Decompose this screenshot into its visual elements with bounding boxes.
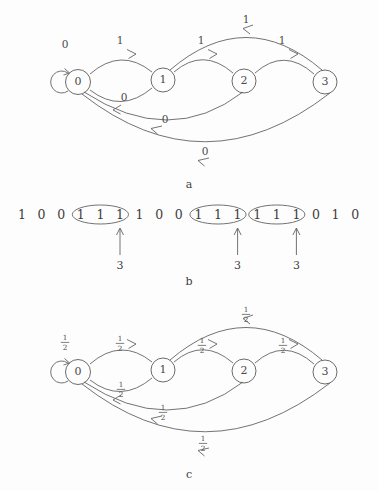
state-node-1[interactable]: 1 — [151, 68, 175, 92]
bit-digit: 0 — [57, 207, 65, 222]
panel-b-bit-sequence: 100111100111111010 333 b — [0, 195, 378, 300]
fraction-numerator: 1 — [201, 434, 206, 443]
edge-path-2-3 — [255, 60, 314, 74]
state-label-3: 3 — [322, 365, 329, 378]
bit-digit: 0 — [312, 207, 320, 222]
transition-label-1-0: 0 — [121, 91, 128, 103]
probability-label-1-0: 12 — [117, 380, 125, 399]
transition-label-0-1: 1 — [117, 34, 124, 46]
group-count-label: 3 — [234, 259, 241, 272]
probability-label-2-3: 12 — [279, 336, 287, 355]
bit-digit: 1 — [18, 207, 26, 222]
state-node-0[interactable]: 0 — [66, 360, 91, 385]
edge-arrowhead-2-3 — [289, 340, 298, 349]
bit-sequence-layer: 100111100111111010 — [18, 207, 359, 222]
edge-arrowhead-2-3 — [289, 50, 298, 59]
fraction-denominator: 2 — [63, 343, 68, 352]
bit-digit: 1 — [136, 207, 144, 222]
state-label-0: 0 — [75, 75, 82, 88]
edge-arrowhead-1-2 — [208, 50, 217, 59]
group-count-label: 3 — [293, 259, 300, 272]
transition-label-3-0: 0 — [202, 145, 209, 157]
transition-0-to-0: 0 — [51, 38, 70, 93]
bit-digit: 1 — [273, 207, 281, 222]
state-node-3[interactable]: 3 — [313, 70, 337, 94]
edge-path-3-0 — [82, 93, 330, 142]
fraction-numerator: 1 — [119, 380, 124, 389]
probability-label-1-2: 12 — [198, 336, 206, 355]
fraction-numerator: 1 — [161, 403, 166, 412]
probability-label-2-0: 12 — [159, 403, 167, 422]
probability-label-3-0: 12 — [199, 434, 207, 453]
bit-digit: 1 — [332, 207, 340, 222]
transition-label-2-0: 0 — [162, 113, 169, 125]
bit-digit: 1 — [292, 207, 300, 222]
edge-arrowhead-0-1 — [127, 340, 136, 349]
state-node-1[interactable]: 1 — [151, 358, 175, 382]
state-label-0: 0 — [75, 365, 82, 378]
panel-a-diagram: 0 1 0 1 — [0, 0, 378, 195]
bit-digit: 1 — [96, 207, 104, 222]
fraction-denominator: 2 — [201, 444, 206, 453]
caption-panel-b: b — [0, 275, 378, 288]
transition-3-to-0: 0 — [82, 93, 330, 166]
bit-digit: 0 — [155, 207, 163, 222]
fraction-denominator: 2 — [118, 344, 123, 353]
fraction-denominator: 2 — [119, 390, 124, 399]
state-label-2: 2 — [241, 74, 248, 87]
fraction-numerator: 1 — [200, 336, 205, 345]
edge-arrowhead-1-2 — [208, 340, 217, 349]
edge-arrowhead-0-1 — [127, 50, 136, 59]
fraction-numerator: 1 — [63, 333, 68, 342]
edge-path-1-2 — [174, 60, 233, 73]
fraction-denominator: 2 — [161, 413, 166, 422]
panel-c-state-machine: 1212121212121212 0 1 2 3 c — [0, 300, 378, 491]
transition-label-1-2: 1 — [198, 34, 205, 46]
transition-2-to-0: 0 — [84, 92, 243, 134]
figure-page: 0 1 0 1 — [0, 0, 378, 491]
state-node-0[interactable]: 0 — [66, 70, 91, 95]
panel-a-state-machine: 0 1 0 1 — [0, 0, 378, 195]
transition-label-0-0: 0 — [62, 38, 69, 50]
caption-panel-a: a — [0, 178, 378, 191]
probability-label-3-1: 12 — [242, 305, 250, 324]
bit-digit: 1 — [253, 207, 261, 222]
fraction-numerator: 1 — [281, 336, 286, 345]
fraction-denominator: 2 — [281, 346, 286, 355]
transition-label-3-1: 1 — [243, 13, 250, 25]
probability-label-0-0: 12 — [61, 333, 69, 352]
edge-arrowhead-3-0 — [198, 158, 209, 166]
bit-digit: 1 — [214, 207, 222, 222]
state-node-3[interactable]: 3 — [313, 360, 337, 384]
bit-digit: 1 — [77, 207, 85, 222]
bit-digit: 1 — [194, 207, 202, 222]
state-label-3: 3 — [322, 75, 329, 88]
state-label-2: 2 — [241, 364, 248, 377]
edge-path-3-1 — [170, 38, 322, 71]
bit-digit: 1 — [234, 207, 242, 222]
group-marker-layer: 333 — [72, 205, 305, 272]
caption-panel-c: c — [0, 468, 378, 481]
state-label-1: 1 — [160, 363, 167, 376]
state-node-2[interactable]: 2 — [232, 69, 256, 93]
edge-path-0-1 — [90, 60, 152, 74]
bit-digit: 0 — [175, 207, 183, 222]
bit-digit: 0 — [351, 207, 359, 222]
fraction-numerator: 1 — [244, 305, 249, 314]
edge-path-3-1 — [170, 328, 322, 361]
transition-0-to-0 — [51, 359, 70, 384]
bit-digit: 0 — [38, 207, 46, 222]
state-node-2[interactable]: 2 — [232, 359, 256, 383]
edge-arrowhead-3-1 — [243, 25, 253, 34]
bit-digit: 1 — [116, 207, 124, 222]
fraction-numerator: 1 — [118, 334, 123, 343]
group-count-label: 3 — [117, 259, 124, 272]
panel-c-diagram: 1212121212121212 0 1 2 3 — [0, 300, 378, 491]
transition-0-to-1: 1 — [90, 34, 152, 74]
transition-2-to-3: 1 — [255, 34, 314, 74]
state-label-1: 1 — [160, 73, 167, 86]
fraction-denominator: 2 — [200, 346, 205, 355]
fraction-denominator: 2 — [244, 315, 249, 324]
